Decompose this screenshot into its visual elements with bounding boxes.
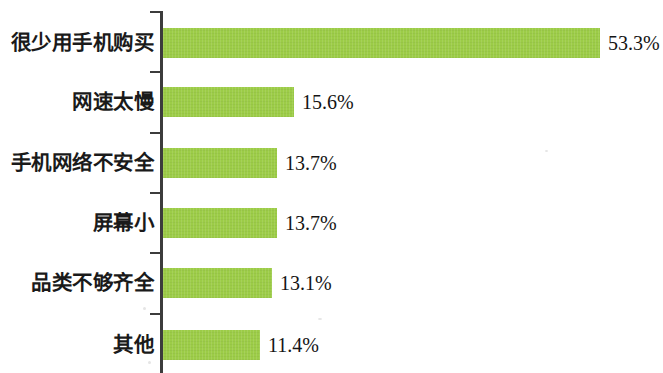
- bar: [163, 330, 260, 360]
- bar-row: 屏幕小 13.7%: [0, 208, 663, 238]
- value-label: 15.6%: [302, 92, 354, 112]
- value-label: 13.7%: [285, 213, 337, 233]
- category-label: 很少用手机购买: [11, 33, 155, 54]
- scan-speckle: [143, 307, 146, 310]
- category-label: 手机网络不安全: [11, 153, 155, 174]
- bar: [163, 208, 277, 238]
- bar-row: 网速太慢 15.6%: [0, 87, 663, 117]
- category-label: 网速太慢: [72, 92, 154, 113]
- axis-tick: [150, 192, 161, 194]
- category-label: 屏幕小: [93, 213, 155, 234]
- bar: [163, 148, 277, 178]
- value-label: 13.7%: [285, 153, 337, 173]
- bar-row: 手机网络不安全 13.7%: [0, 148, 663, 178]
- bar: [163, 28, 600, 58]
- value-label: 11.4%: [268, 335, 319, 355]
- category-label: 品类不够齐全: [31, 273, 154, 294]
- axis-tick: [150, 252, 161, 254]
- value-label: 53.3%: [608, 33, 660, 53]
- bar: [163, 268, 272, 298]
- bar: [163, 87, 294, 117]
- bar-row: 其他 11.4%: [0, 330, 663, 360]
- category-label: 其他: [113, 335, 154, 356]
- axis-tick: [150, 132, 161, 134]
- axis-tick: [150, 71, 161, 73]
- bar-row: 很少用手机购买 53.3%: [0, 28, 663, 58]
- scan-speckle: [318, 318, 322, 320]
- scan-speckle: [148, 361, 151, 364]
- axis-tick: [150, 11, 161, 13]
- bar-row: 品类不够齐全 13.1%: [0, 268, 663, 298]
- value-label: 13.1%: [280, 273, 332, 293]
- axis-tick: [150, 313, 161, 315]
- horizontal-bar-chart: 很少用手机购买 53.3% 网速太慢 15.6% 手机网络不安全 13.7% 屏…: [0, 0, 663, 373]
